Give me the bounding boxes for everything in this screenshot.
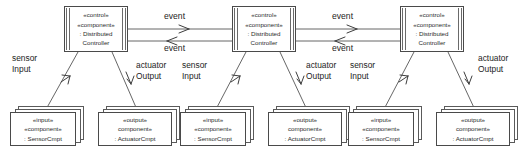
event-label-forward-1: event xyxy=(164,11,185,21)
controller-stereotype-kind: «component» xyxy=(67,20,125,29)
actuator-instance: : ActuatorCmpt xyxy=(269,134,341,143)
actuator-output-label-line2: Output xyxy=(478,64,508,75)
component-rail-left xyxy=(234,8,238,50)
sensor-input-label-3: sensor Input xyxy=(350,60,375,81)
controller-instance-line1: : Distributed xyxy=(235,29,293,38)
actuator-arrowhead-3 xyxy=(464,72,472,84)
sensor-arrowhead-2 xyxy=(231,75,240,84)
actuator-stereotype-kind: component» xyxy=(437,124,509,133)
sensor-input-label-1: sensor Input xyxy=(12,53,37,74)
actuator-output-label-line2: Output xyxy=(306,71,336,82)
sensor-input-label-line2: Input xyxy=(350,71,375,82)
sensor-arrowhead-3 xyxy=(399,75,408,84)
controller-component-3[interactable]: «control» «component» : Distributed Cont… xyxy=(400,6,464,52)
actuator-link-line-2 xyxy=(280,52,308,112)
sensor-instance: : SensorCmpt xyxy=(181,134,245,143)
controller-instance-line2: Controller xyxy=(67,38,125,47)
sensor-stereotype-kind: «component» xyxy=(349,124,413,133)
controller-instance-line2: Controller xyxy=(235,38,293,47)
sensor-stereotype-kind: «component» xyxy=(181,124,245,133)
controller-instance-line2: Controller xyxy=(403,38,461,47)
actuator-stereotype-role: «output» xyxy=(99,115,171,124)
sensor-stereotype-kind: «component» xyxy=(11,124,75,133)
sensor-link-line-3 xyxy=(382,52,414,113)
controller-stereotype-role: «control» xyxy=(67,10,125,19)
actuator-stereotype-kind: component» xyxy=(269,124,341,133)
sensor-link-line-2 xyxy=(214,52,246,113)
actuator-output-label-line1: actuator xyxy=(478,53,508,63)
event-label-forward-2: event xyxy=(332,11,353,21)
diagram-canvas: «control» «component» : Distributed Cont… xyxy=(0,0,529,147)
controller-stereotype-kind: «component» xyxy=(403,20,461,29)
controller-stereotype-role: «control» xyxy=(235,10,293,19)
actuator-stereotype-role: «output» xyxy=(437,115,509,124)
component-rail-right xyxy=(458,8,462,50)
actuator-link-line-3 xyxy=(448,52,476,112)
sensor-input-label-line1: sensor xyxy=(12,53,37,63)
actuator-output-label-1: actuator Output xyxy=(136,60,166,81)
sensor-stereotype-role: «input» xyxy=(11,115,75,124)
component-rail-right xyxy=(290,8,294,50)
event-label-reverse-1: event xyxy=(164,43,185,53)
actuator-instance: : ActuatorCmpt xyxy=(437,134,509,143)
sensor-input-label-line2: Input xyxy=(182,71,207,82)
sensor-component-face-1[interactable]: «input» «component» : SensorCmpt xyxy=(10,112,76,146)
actuator-output-label-2: actuator Output xyxy=(306,60,336,81)
component-rail-left xyxy=(66,8,70,50)
actuator-output-label-line1: actuator xyxy=(306,60,336,70)
sensor-stereotype-role: «input» xyxy=(349,115,413,124)
sensor-component-2[interactable]: «input» «component» : SensorCmpt xyxy=(180,106,258,147)
sensor-input-label-line1: sensor xyxy=(350,60,375,70)
actuator-output-label-3: actuator Output xyxy=(478,53,508,74)
actuator-arrowhead-2 xyxy=(296,72,304,84)
sensor-input-label-line2: Input xyxy=(12,64,37,75)
controller-component-1[interactable]: «control» «component» : Distributed Cont… xyxy=(64,6,128,52)
sensor-link-line-1 xyxy=(44,52,78,113)
controller-stereotype-kind: «component» xyxy=(235,20,293,29)
sensor-instance: : SensorCmpt xyxy=(349,134,413,143)
actuator-output-label-line1: actuator xyxy=(136,60,166,70)
sensor-component-3[interactable]: «input» «component» : SensorCmpt xyxy=(348,106,426,147)
actuator-stereotype-kind: component» xyxy=(99,124,171,133)
actuator-link-line-1 xyxy=(112,52,138,112)
actuator-stereotype-role: «output» xyxy=(269,115,341,124)
component-rail-left xyxy=(402,8,406,50)
controller-instance-line1: : Distributed xyxy=(403,29,461,38)
event-label-reverse-2: event xyxy=(332,43,353,53)
actuator-component-3[interactable]: «output» component» : ActuatorCmpt xyxy=(436,106,522,147)
sensor-component-face-2[interactable]: «input» «component» : SensorCmpt xyxy=(180,112,246,146)
controller-component-2[interactable]: «control» «component» : Distributed Cont… xyxy=(232,6,296,52)
actuator-component-face-1[interactable]: «output» component» : ActuatorCmpt xyxy=(98,112,172,146)
actuator-component-face-3[interactable]: «output» component» : ActuatorCmpt xyxy=(436,112,510,146)
sensor-input-label-2: sensor Input xyxy=(182,60,207,81)
actuator-instance: : ActuatorCmpt xyxy=(99,134,171,143)
controller-stereotype-role: «control» xyxy=(403,10,461,19)
actuator-output-label-line2: Output xyxy=(136,71,166,82)
sensor-component-face-3[interactable]: «input» «component» : SensorCmpt xyxy=(348,112,414,146)
actuator-component-2[interactable]: «output» component» : ActuatorCmpt xyxy=(268,106,354,147)
component-rail-right xyxy=(122,8,126,50)
actuator-component-face-2[interactable]: «output» component» : ActuatorCmpt xyxy=(268,112,342,146)
controller-instance-line1: : Distributed xyxy=(67,29,125,38)
sensor-input-label-line1: sensor xyxy=(182,60,207,70)
sensor-stereotype-role: «input» xyxy=(181,115,245,124)
actuator-component-1[interactable]: «output» component» : ActuatorCmpt xyxy=(98,106,184,147)
sensor-instance: : SensorCmpt xyxy=(11,134,75,143)
sensor-component-1[interactable]: «input» «component» : SensorCmpt xyxy=(10,106,88,147)
actuator-arrowhead-1 xyxy=(126,72,134,84)
